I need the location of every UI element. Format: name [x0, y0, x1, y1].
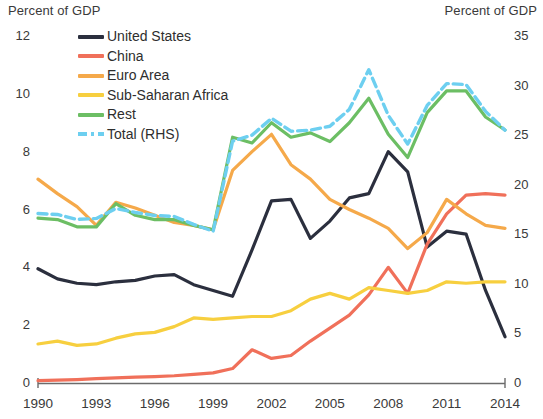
legend-item: China: [78, 47, 228, 67]
legend-item: United States: [78, 27, 228, 47]
legend-item: Rest: [78, 105, 228, 125]
series-line-united-states: [38, 152, 505, 337]
legend-swatch-icon: [78, 54, 104, 58]
legend-swatch-icon: [78, 74, 104, 78]
legend-item-label: Total (RHS): [107, 127, 179, 142]
legend-item: Euro Area: [78, 66, 228, 86]
legend-swatch-icon: [78, 113, 104, 117]
legend-swatch-icon: [78, 93, 104, 97]
legend-item: Total (RHS): [78, 125, 228, 145]
legend-item: Sub-Saharan Africa: [78, 86, 228, 106]
legend-item-label: Sub-Saharan Africa: [107, 88, 228, 103]
legend-swatch-icon: [78, 35, 104, 39]
legend-item-label: Rest: [107, 107, 136, 122]
series-line-sub-saharan-africa: [38, 282, 505, 346]
legend-item-label: China: [107, 49, 144, 64]
legend-item-label: United States: [107, 29, 191, 44]
chart-legend: United StatesChinaEuro AreaSub-Saharan A…: [78, 27, 228, 144]
gdp-investment-line-chart: Percent of GDP Percent of GDP 024681012 …: [0, 0, 543, 419]
legend-swatch-icon: [78, 132, 104, 136]
dashed-line-icon: [78, 132, 104, 136]
legend-item-label: Euro Area: [107, 68, 169, 83]
